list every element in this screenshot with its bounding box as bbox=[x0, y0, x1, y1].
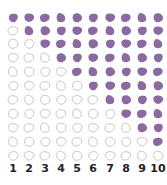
outline-blob-icon bbox=[87, 150, 99, 161]
outline-blob-icon bbox=[7, 66, 19, 77]
filled-blob-icon bbox=[120, 38, 132, 49]
filled-blob-icon bbox=[71, 38, 83, 49]
outline-blob-icon bbox=[87, 136, 99, 147]
outline-blob-icon bbox=[23, 94, 35, 105]
filled-blob-icon bbox=[136, 122, 148, 133]
filled-blob-icon bbox=[55, 25, 67, 36]
filled-blob-icon bbox=[120, 12, 132, 23]
outline-blob-icon bbox=[104, 136, 116, 147]
outline-blob-icon bbox=[39, 150, 51, 161]
outline-blob-icon bbox=[23, 136, 35, 147]
filled-blob-icon bbox=[152, 80, 164, 91]
outline-blob-icon bbox=[55, 136, 67, 147]
filled-blob-icon bbox=[152, 108, 164, 119]
outline-blob-icon bbox=[55, 66, 67, 77]
filled-blob-icon bbox=[136, 38, 148, 49]
filled-blob-icon bbox=[152, 122, 164, 133]
outline-blob-icon bbox=[55, 94, 67, 105]
filled-blob-icon bbox=[55, 12, 67, 23]
outline-blob-icon bbox=[120, 136, 132, 147]
outline-blob-icon bbox=[104, 122, 116, 133]
filled-blob-icon bbox=[152, 66, 164, 77]
filled-blob-icon bbox=[120, 25, 132, 36]
filled-blob-icon bbox=[71, 66, 83, 77]
filled-blob-icon bbox=[7, 12, 19, 23]
outline-blob-icon bbox=[55, 108, 67, 119]
outline-blob-icon bbox=[71, 94, 83, 105]
filled-blob-icon bbox=[120, 80, 132, 91]
filled-blob-icon bbox=[152, 52, 164, 63]
outline-blob-icon bbox=[23, 80, 35, 91]
filled-blob-icon bbox=[71, 25, 83, 36]
outline-blob-icon bbox=[7, 108, 19, 119]
outline-blob-icon bbox=[39, 66, 51, 77]
outline-blob-icon bbox=[39, 122, 51, 133]
outline-blob-icon bbox=[55, 150, 67, 161]
filled-blob-icon bbox=[152, 12, 164, 23]
filled-blob-icon bbox=[104, 94, 116, 105]
filled-blob-icon bbox=[136, 94, 148, 105]
outline-blob-icon bbox=[120, 150, 132, 161]
column-label: 10 bbox=[148, 162, 167, 175]
filled-blob-icon bbox=[87, 12, 99, 23]
filled-blob-icon bbox=[136, 25, 148, 36]
filled-blob-icon bbox=[120, 94, 132, 105]
filled-blob-icon bbox=[55, 52, 67, 63]
filled-blob-icon bbox=[136, 108, 148, 119]
filled-blob-icon bbox=[39, 25, 51, 36]
outline-blob-icon bbox=[55, 122, 67, 133]
outline-blob-icon bbox=[136, 136, 148, 147]
filled-blob-icon bbox=[104, 52, 116, 63]
filled-blob-icon bbox=[87, 80, 99, 91]
outline-blob-icon bbox=[87, 94, 99, 105]
outline-blob-icon bbox=[7, 94, 19, 105]
filled-blob-icon bbox=[55, 38, 67, 49]
outline-blob-icon bbox=[7, 150, 19, 161]
column-labels: 12345678910 bbox=[0, 162, 167, 178]
filled-blob-icon bbox=[71, 52, 83, 63]
filled-blob-icon bbox=[104, 12, 116, 23]
outline-blob-icon bbox=[23, 122, 35, 133]
filled-blob-icon bbox=[87, 66, 99, 77]
filled-blob-icon bbox=[87, 38, 99, 49]
filled-blob-icon bbox=[104, 80, 116, 91]
outline-blob-icon bbox=[7, 80, 19, 91]
outline-blob-icon bbox=[7, 25, 19, 36]
filled-blob-icon bbox=[71, 12, 83, 23]
outline-blob-icon bbox=[39, 94, 51, 105]
outline-blob-icon bbox=[23, 52, 35, 63]
filled-blob-icon bbox=[136, 12, 148, 23]
filled-blob-icon bbox=[152, 25, 164, 36]
outline-blob-icon bbox=[71, 136, 83, 147]
filled-blob-icon bbox=[23, 12, 35, 23]
outline-blob-icon bbox=[87, 108, 99, 119]
filled-blob-icon bbox=[136, 52, 148, 63]
outline-blob-icon bbox=[7, 122, 19, 133]
outline-blob-icon bbox=[120, 122, 132, 133]
outline-blob-icon bbox=[23, 150, 35, 161]
filled-blob-icon bbox=[23, 25, 35, 36]
filled-blob-icon bbox=[136, 80, 148, 91]
filled-blob-icon bbox=[152, 38, 164, 49]
outline-blob-icon bbox=[39, 108, 51, 119]
filled-blob-icon bbox=[39, 12, 51, 23]
outline-blob-icon bbox=[104, 150, 116, 161]
outline-blob-icon bbox=[23, 108, 35, 119]
filled-blob-icon bbox=[87, 25, 99, 36]
outline-blob-icon bbox=[7, 52, 19, 63]
outline-blob-icon bbox=[39, 80, 51, 91]
filled-blob-icon bbox=[152, 94, 164, 105]
filled-blob-icon bbox=[104, 66, 116, 77]
filled-blob-icon bbox=[120, 52, 132, 63]
filled-blob-icon bbox=[120, 108, 132, 119]
outline-blob-icon bbox=[7, 136, 19, 147]
outline-blob-icon bbox=[104, 108, 116, 119]
outline-blob-icon bbox=[71, 150, 83, 161]
outline-blob-icon bbox=[152, 150, 164, 161]
filled-blob-icon bbox=[152, 136, 164, 147]
outline-blob-icon bbox=[39, 136, 51, 147]
filled-blob-icon bbox=[120, 66, 132, 77]
outline-blob-icon bbox=[23, 66, 35, 77]
outline-blob-icon bbox=[71, 108, 83, 119]
outline-blob-icon bbox=[71, 122, 83, 133]
